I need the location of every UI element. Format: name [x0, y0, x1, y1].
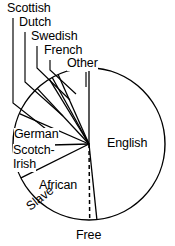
slice-label-german: German [14, 128, 59, 142]
slice-label-scotch-irish-line1: Scotch- [13, 144, 55, 158]
slice-label-other: Other [67, 57, 98, 71]
slice-label-dutch: Dutch [19, 16, 51, 30]
slice-label-swedish: Swedish [31, 30, 78, 44]
pie-chart-graphic [0, 0, 175, 246]
slice-label-free: Free [76, 229, 101, 243]
slice-label-scottish: Scottish [7, 2, 51, 16]
slice-label-scotch-irish-line2: Irish [13, 158, 36, 172]
slice-label-english: English [107, 137, 147, 151]
pie-chart: Scottish Dutch Swedish French Other Engl… [0, 0, 175, 246]
